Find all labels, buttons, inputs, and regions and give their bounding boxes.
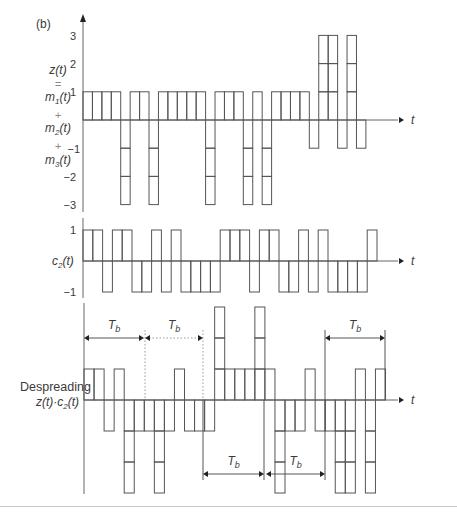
panel-label: (b)	[36, 18, 51, 30]
tb-label: Tb	[290, 454, 302, 470]
z-chip	[158, 92, 167, 120]
despread-chip	[255, 338, 265, 369]
despread-chip	[305, 369, 315, 400]
despread-chip	[174, 369, 184, 400]
c2-chip	[142, 261, 152, 292]
c2-chip	[348, 261, 358, 292]
z-tick: −1	[56, 144, 80, 155]
z-chip	[206, 176, 215, 204]
z-chip	[253, 92, 262, 120]
c2-chip	[210, 261, 220, 292]
despread-chip	[124, 400, 134, 431]
despread-chip	[255, 307, 265, 338]
despread-chip	[144, 400, 154, 431]
z-plot-label: z(t) = m1(t) + m2(t) + m3(t)	[36, 64, 80, 172]
z-chip	[206, 148, 215, 176]
c2-t-arrow-icon	[399, 258, 404, 264]
c2-chip	[299, 230, 309, 261]
z-chip	[121, 148, 130, 176]
despread-chip	[345, 431, 355, 462]
despread-chip	[355, 369, 365, 400]
z-chip	[121, 176, 130, 204]
c2-chip	[259, 230, 269, 261]
t-axis-label: t	[411, 114, 414, 126]
z-chip	[319, 64, 328, 92]
despread-formula: z(t)·c2(t)	[36, 396, 79, 411]
despread-chip	[335, 431, 345, 462]
z-chip	[149, 148, 158, 176]
c2-chip	[152, 230, 162, 261]
despread-chip	[235, 369, 245, 400]
despread-chip	[215, 369, 225, 400]
despread-chip	[365, 431, 375, 462]
arrow-right-icon	[198, 335, 203, 341]
despread-chip	[255, 369, 265, 400]
despread-chip	[114, 369, 124, 400]
c2-chip	[357, 261, 367, 292]
z-chip	[196, 92, 205, 120]
z-chip	[328, 35, 337, 63]
c2-chip	[289, 261, 299, 292]
z-chip	[347, 64, 356, 92]
z-chip	[215, 92, 224, 120]
tb-label: Tb	[228, 454, 240, 470]
c2-chip	[328, 261, 338, 292]
z-chip	[206, 120, 215, 148]
z-chip	[177, 92, 186, 120]
z-chip	[140, 92, 149, 120]
arrow-left-icon	[266, 471, 271, 477]
c2-chip	[220, 230, 230, 261]
z-chip	[130, 92, 139, 120]
despread-chip	[345, 400, 355, 431]
tb-label: Tb	[349, 318, 361, 334]
z-chip	[168, 92, 177, 120]
c2-chip	[367, 230, 377, 261]
z-chip	[243, 120, 252, 148]
despread-chip	[134, 400, 144, 431]
z-chip	[243, 176, 252, 204]
c2-chip	[279, 261, 289, 292]
c2-chip	[93, 230, 103, 261]
despread-chip	[94, 369, 104, 400]
z-chip	[338, 120, 347, 148]
z-chip	[272, 92, 281, 120]
z-chip	[309, 120, 318, 148]
z-chip	[262, 120, 271, 148]
despread-chip	[154, 431, 164, 462]
t-axis-label: t	[411, 255, 414, 267]
arrow-left-icon	[203, 471, 208, 477]
z-chip	[121, 120, 130, 148]
despread-chip	[365, 462, 375, 493]
despread-chip	[295, 400, 305, 431]
c2-chip	[201, 261, 211, 292]
c2-chip	[318, 230, 328, 261]
despread-chip	[275, 400, 285, 431]
despread-chip	[154, 400, 164, 431]
c2-chip	[191, 261, 201, 292]
c2-chip	[240, 230, 250, 261]
c2-chip	[132, 261, 142, 292]
despread-chip	[245, 369, 255, 400]
z-chip	[290, 92, 299, 120]
despread-chip	[185, 400, 195, 431]
despread-t-arrow-icon	[399, 397, 404, 403]
z-chip	[83, 92, 92, 120]
despread-label: Despreading	[20, 381, 91, 394]
despread-chip	[205, 400, 215, 431]
c2-chip	[269, 230, 279, 261]
arrow-right-icon	[139, 335, 144, 341]
z-label-line: m2(t)	[36, 122, 80, 140]
despread-chip	[215, 338, 225, 369]
despread-chip	[124, 462, 134, 493]
arrow-right-icon	[320, 471, 325, 477]
c2-chip	[103, 261, 113, 292]
despread-chip	[375, 369, 385, 400]
despread-chip	[215, 307, 225, 338]
z-tick: −2	[52, 172, 76, 183]
c2-chip	[161, 261, 171, 292]
z-label-op: +	[36, 109, 80, 123]
z-chip	[243, 148, 252, 176]
z-chip	[319, 92, 328, 120]
z-chip	[347, 92, 356, 120]
arrow-right-icon	[259, 471, 264, 477]
